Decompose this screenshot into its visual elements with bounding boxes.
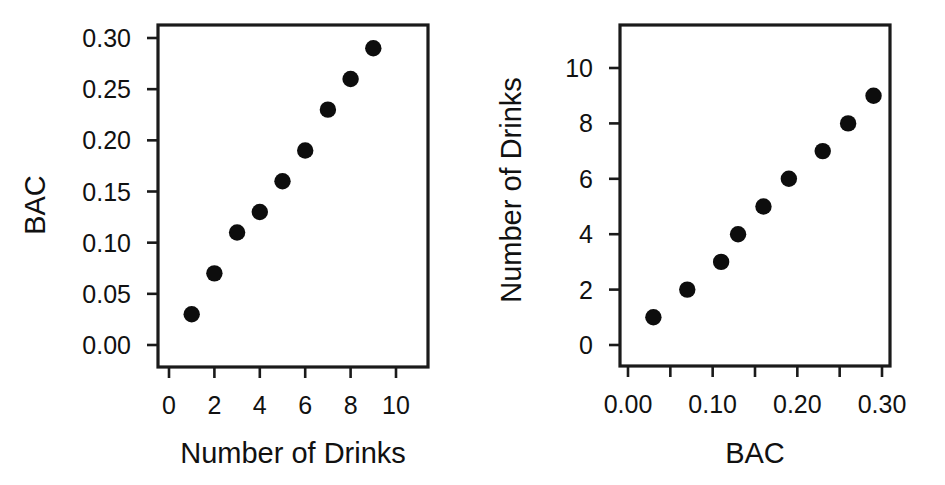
data-point [206, 265, 222, 281]
data-point [252, 204, 268, 220]
figure-canvas: 0.000.050.100.150.200.250.30 0246810 Num… [0, 0, 945, 485]
x-tick-label: 4 [253, 391, 267, 419]
x-axis-ticklabels-left: 0246810 [162, 391, 410, 419]
y-tick-label: 0.10 [82, 229, 131, 257]
y-tick-label: 0.00 [82, 331, 131, 359]
y-tick-label: 6 [579, 165, 593, 193]
data-points-left [184, 40, 382, 322]
data-point [815, 143, 831, 159]
panel-drinks-vs-bac: 0246810 0.000.100.200.30 BAC Number of D… [495, 25, 906, 469]
data-point [184, 306, 200, 322]
data-points-right [645, 88, 882, 326]
x-tick-label: 6 [298, 391, 312, 419]
y-axis-ticks-left [147, 38, 158, 345]
x-axis-title-left: Number of Drinks [180, 437, 406, 469]
data-point [840, 115, 856, 131]
x-axis-ticks-left [169, 367, 396, 378]
x-axis-ticklabels-right: 0.000.100.200.30 [604, 390, 907, 418]
y-tick-label: 0 [579, 331, 593, 359]
data-point [730, 226, 746, 242]
y-axis-title-left: BAC [19, 175, 51, 235]
data-point [342, 71, 358, 87]
x-tick-label: 10 [382, 391, 410, 419]
data-point [781, 171, 797, 187]
x-tick-label: 0.00 [604, 390, 653, 418]
data-point [679, 281, 695, 297]
data-point [865, 88, 881, 104]
data-point [274, 173, 290, 189]
data-point [755, 198, 771, 214]
x-axis-ticks-right [628, 366, 882, 377]
data-point [645, 309, 661, 325]
data-point [297, 142, 313, 158]
data-point [713, 254, 729, 270]
y-tick-label: 4 [579, 220, 593, 248]
y-axis-ticks-right [609, 68, 620, 345]
data-point [365, 40, 381, 56]
x-axis-title-right: BAC [725, 437, 785, 469]
x-tick-label: 0 [162, 391, 176, 419]
y-tick-label: 2 [579, 276, 593, 304]
y-tick-label: 8 [579, 109, 593, 137]
data-point [229, 224, 245, 240]
y-tick-label: 0.15 [82, 178, 131, 206]
y-tick-label: 0.20 [82, 126, 131, 154]
y-tick-label: 0.05 [82, 280, 131, 308]
y-axis-ticklabels-left: 0.000.050.100.150.200.250.30 [82, 24, 131, 359]
x-tick-label: 0.30 [858, 390, 907, 418]
data-point [320, 101, 336, 117]
x-tick-label: 0.20 [773, 390, 822, 418]
y-axis-title-right: Number of Drinks [495, 77, 527, 303]
panel-bac-vs-drinks: 0.000.050.100.150.200.250.30 0246810 Num… [19, 24, 428, 469]
x-tick-label: 0.10 [688, 390, 737, 418]
y-tick-label: 0.25 [82, 75, 131, 103]
y-tick-label: 0.30 [82, 24, 131, 52]
scatterplot-figure: 0.000.050.100.150.200.250.30 0246810 Num… [0, 0, 945, 485]
x-tick-label: 2 [207, 391, 221, 419]
y-tick-label: 10 [565, 54, 593, 82]
x-tick-label: 8 [344, 391, 358, 419]
y-axis-ticklabels-right: 0246810 [565, 54, 593, 359]
